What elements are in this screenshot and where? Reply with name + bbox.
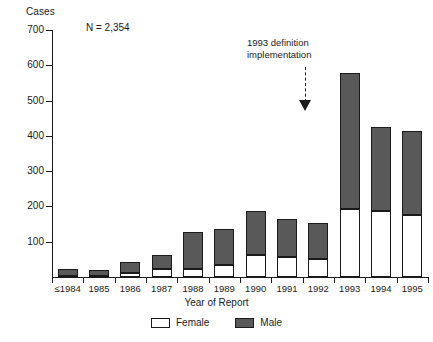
legend-label-male: Male [260,318,282,328]
bar-segment-female [340,209,360,277]
bar-1987 [152,255,172,277]
definition-change-leader-line [305,67,306,102]
cases-by-year-stacked-bar-chart: Cases N = 2,354 100200300400500600700 ≤1… [0,0,433,342]
bar-segment-male [340,73,360,209]
x-axis-tick-label: 1993 [334,283,365,294]
bar-segment-female [152,269,172,277]
bar-segment-male [183,232,203,269]
bar-segment-male [308,223,328,259]
x-axis-tick-label: ≤1984 [52,283,83,294]
x-axis-tick-label: 1994 [365,283,396,294]
bar-segment-male [371,127,391,211]
bar-segment-female [371,211,391,277]
bar-segment-male [152,255,172,269]
bar-1991 [277,219,297,277]
legend-item-female: Female [151,318,209,328]
x-axis-tick-label: 1987 [146,283,177,294]
bar-1993 [340,73,360,277]
bar-1984 [58,269,78,277]
bar-segment-female [58,275,78,277]
bar-1995 [402,131,422,277]
x-axis-title: Year of Report [0,297,433,308]
x-axis-tick [428,278,429,283]
bar-segment-female [277,257,297,277]
bar-segment-female [402,215,422,277]
bar-segment-female [246,255,266,277]
legend-swatch-male [235,318,254,328]
y-axis-tick-label: 600 [4,60,44,70]
bar-1988 [183,232,203,277]
y-axis-tick-label: 500 [4,96,44,106]
bar-1989 [214,229,234,277]
bar-segment-male [277,219,297,257]
definition-change-annotation: 1993 definition implementation [247,37,311,60]
x-axis-tick-label: 1990 [240,283,271,294]
legend-item-male: Male [235,318,282,328]
bar-segment-female [120,273,140,277]
bar-1994 [371,127,391,277]
bar-segment-female [214,265,234,277]
bar-segment-female [308,259,328,277]
bar-segment-female [89,275,109,277]
x-axis-tick-label: 1986 [115,283,146,294]
bar-1992 [308,223,328,277]
bar-segment-male [214,229,234,264]
x-axis-tick-label: 1991 [271,283,302,294]
definition-change-arrow-icon [299,100,311,111]
x-axis-tick-label: 1995 [397,283,428,294]
y-axis-tick-label: 400 [4,131,44,141]
x-axis-tick-label: 1992 [303,283,334,294]
legend-swatch-female [151,318,170,328]
bar-1990 [246,211,266,277]
x-axis-tick-label: 1985 [83,283,114,294]
y-axis-tick-label: 300 [4,166,44,176]
x-axis-tick-label: 1989 [209,283,240,294]
bar-segment-male [120,262,140,274]
y-axis-tick-label: 200 [4,201,44,211]
y-axis-tick-label: 100 [4,237,44,247]
bar-1985 [89,270,109,277]
y-axis-tick-label: 700 [4,25,44,35]
plot-area [52,30,428,277]
bar-segment-female [183,269,203,277]
legend-label-female: Female [176,318,209,328]
bar-segment-male [402,131,422,216]
x-axis-tick-label: 1988 [177,283,208,294]
y-axis-title: Cases [26,6,55,17]
bar-segment-male [246,211,266,255]
legend: Female Male [0,318,433,328]
bar-1986 [120,261,140,277]
